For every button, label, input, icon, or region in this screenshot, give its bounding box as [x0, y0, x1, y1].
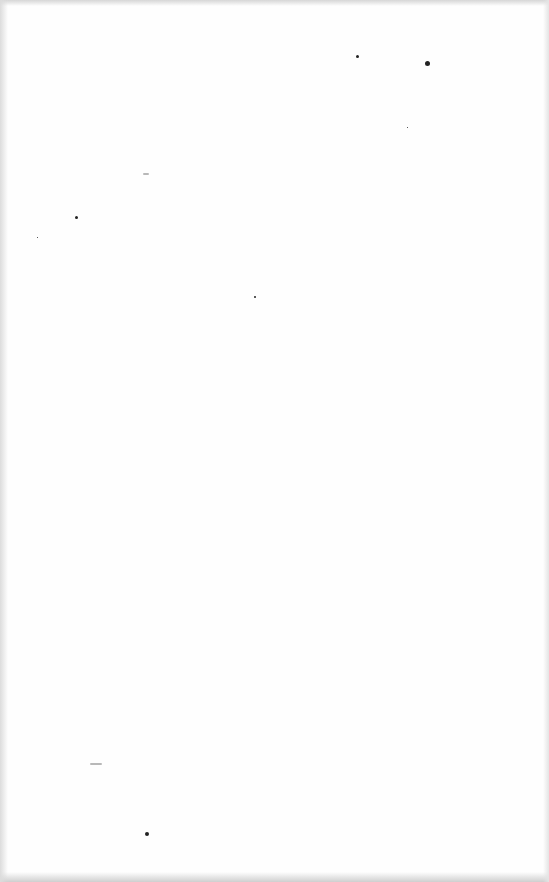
dust-speck [407, 127, 408, 128]
scan-edge-right [543, 0, 549, 882]
dust-speck [425, 61, 430, 66]
dust-speck [37, 237, 38, 238]
blank-page [0, 0, 549, 882]
scan-edge-top [0, 0, 549, 6]
scan-edge-left [0, 0, 8, 882]
smudge-mark [90, 763, 102, 765]
dust-speck [145, 832, 149, 836]
scan-edge-bottom [0, 872, 549, 882]
dust-speck [356, 55, 359, 58]
smudge-mark [143, 173, 149, 175]
dust-speck [75, 216, 78, 219]
dust-speck [254, 296, 256, 298]
